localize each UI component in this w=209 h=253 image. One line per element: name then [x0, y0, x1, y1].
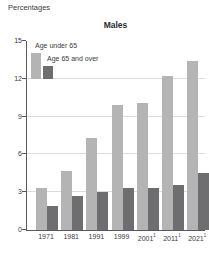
bar-group-1991 — [86, 138, 108, 230]
y-axis-tick — [22, 191, 26, 192]
y-axis-tick — [22, 116, 26, 117]
bar-2001-age-under-65 — [137, 103, 148, 230]
y-axis-tick — [22, 78, 26, 79]
y-axis-tick — [22, 153, 26, 154]
y-axis-tick-label: 3 — [0, 188, 22, 195]
bar-2011-age-under-65 — [162, 76, 173, 230]
y-axis-tick-label: 15 — [0, 37, 22, 44]
legend: Age under 65 Age 65 and over — [28, 41, 138, 121]
bar-group-1999 — [112, 105, 134, 230]
bar-group-2021 — [187, 61, 209, 230]
y-axis-tick-label: 6 — [0, 150, 22, 157]
bar-2021-age-65-and-over — [198, 173, 209, 230]
footnote-marker: 1 — [204, 233, 207, 238]
footnote-marker: 1 — [178, 233, 181, 238]
bar-2001-age-65-and-over — [148, 188, 159, 230]
x-axis-label-2021: 20211 — [182, 233, 209, 242]
bar-1971-age-under-65 — [36, 188, 47, 230]
bar-1991-age-under-65 — [86, 138, 97, 230]
bar-2011-age-65-and-over — [173, 185, 184, 230]
bar-1971-age-65-and-over — [47, 206, 58, 230]
bar-1999-age-under-65 — [112, 105, 123, 230]
legend-swatch-under-65 — [31, 53, 41, 79]
chart-canvas: Percentages Males 03691215 Age under 65 … — [0, 0, 209, 253]
y-axis-tick — [22, 229, 26, 230]
legend-swatch-65-and-over — [43, 66, 53, 79]
bar-group-2001 — [137, 103, 159, 230]
bar-1981-age-65-and-over — [72, 196, 83, 230]
bar-1991-age-65-and-over — [97, 192, 108, 230]
footnote-marker: 1 — [153, 233, 156, 238]
plot-area: Age under 65 Age 65 and over — [26, 41, 205, 231]
bar-1981-age-under-65 — [61, 171, 72, 230]
bar-2021-age-under-65 — [187, 61, 198, 230]
units-label: Percentages — [8, 3, 50, 12]
x-axis-labels: 1971198119911999200112011120211 — [0, 233, 209, 247]
bar-group-2011 — [162, 76, 184, 230]
y-axis-tick-label: 9 — [0, 113, 22, 120]
chart-title: Males — [26, 20, 205, 30]
y-axis-tick-label: 12 — [0, 75, 22, 82]
legend-label-under-65: Age under 65 — [35, 42, 77, 49]
bar-group-1981 — [61, 171, 83, 230]
y-axis-tick — [22, 40, 26, 41]
y-axis-labels: 03691215 — [0, 41, 22, 231]
y-axis-tick-label: 0 — [0, 226, 22, 233]
bar-1999-age-65-and-over — [123, 188, 134, 230]
bar-group-1971 — [36, 188, 58, 230]
legend-label-65-and-over: Age 65 and over — [47, 55, 98, 62]
